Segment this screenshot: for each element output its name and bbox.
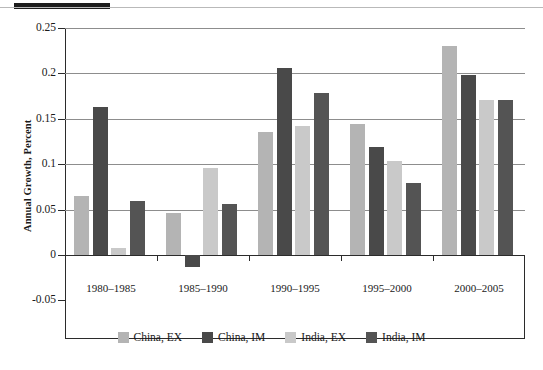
bar [130,201,145,255]
bar [111,248,126,255]
x-axis-tick [249,255,250,261]
legend-item: China, EX [118,331,183,343]
y-axis-tick [58,255,65,256]
y-axis-tick [58,164,65,165]
zero-baseline [65,255,525,256]
bar [295,126,310,255]
legend-label: India, IM [382,331,425,343]
bar [258,132,273,255]
bar [222,204,237,255]
y-tick-label: 0 [4,249,56,261]
y-axis-tick [58,28,65,29]
bar [442,46,457,255]
y-tick-label: 0.25 [4,22,56,34]
bar [479,100,494,255]
x-tick-label: 2000–2005 [433,282,525,294]
legend-item: India, EX [285,331,346,343]
bar [203,168,218,255]
legend-swatch-icon [285,332,296,343]
y-axis-tick [58,73,65,74]
plot-frame-right [524,255,525,338]
y-axis-tick [58,300,65,301]
x-tick-label: 1985–1990 [157,282,249,294]
chart-legend: China, EXChina, IMIndia, EXIndia, IM [0,331,543,343]
bar [166,213,181,255]
legend-item: India, IM [366,331,425,343]
legend-label: China, IM [218,331,265,343]
bar [406,183,421,255]
x-axis-tick [433,255,434,261]
x-tick-label: 1990–1995 [249,282,341,294]
x-axis-tick [157,255,158,261]
bar [185,255,200,267]
x-tick-label: 1980–1985 [65,282,157,294]
bar [93,107,108,255]
legend-item: China, IM [202,331,265,343]
bar [498,100,513,255]
page-top-rule [0,7,543,8]
gridline [65,28,525,29]
y-axis-tick [58,210,65,211]
x-tick-label: 1995–2000 [341,282,433,294]
y-axis-title: Annual Growth, Percent [22,120,33,232]
legend-swatch-icon [366,332,377,343]
y-tick-label: 0.2 [4,67,56,79]
figure-container: 0.250.20.150.10.050-0.05 1980–19851985–1… [0,0,543,370]
y-axis-tick [58,119,65,120]
bar [277,68,292,255]
legend-label: India, EX [301,331,346,343]
bar [350,124,365,255]
legend-label: China, EX [134,331,183,343]
bar [369,147,384,255]
bar [74,196,89,255]
y-axis-line-lower [65,255,66,338]
legend-swatch-icon [202,332,213,343]
bar [461,75,476,255]
y-tick-label: -0.05 [4,294,56,306]
x-axis-tick [341,255,342,261]
legend-swatch-icon [118,332,129,343]
bar [387,161,402,255]
page-header-bar [14,3,110,9]
bar [314,93,329,255]
